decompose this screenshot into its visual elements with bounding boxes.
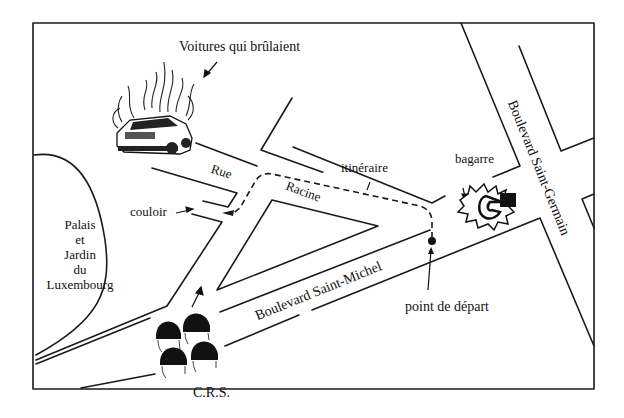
helmet-icon	[156, 313, 218, 378]
bd-saint-michel-south-edge-3	[81, 374, 155, 388]
itinerary-pointer	[367, 182, 370, 190]
start-dot-icon	[428, 237, 436, 245]
label-fight: bagarre	[455, 151, 494, 166]
rue-north-edge	[196, 143, 257, 166]
park-line-2: et	[40, 232, 120, 247]
park-line-1: Palais	[40, 217, 120, 232]
label-park: Palais et Jardin du Luxembourg	[40, 217, 120, 292]
street-map	[0, 0, 624, 418]
label-riot-police: C.R.S.	[193, 385, 230, 400]
park-line-5: Luxembourg	[40, 277, 120, 292]
route-arrowhead	[222, 210, 234, 216]
park-line-4: du	[40, 262, 120, 277]
bd-lower-left	[36, 318, 150, 364]
label-itinerary: itinéraire	[341, 160, 388, 175]
block-north-left	[261, 98, 323, 172]
label-corridor: couloir	[130, 204, 167, 219]
fight-fist-icon	[458, 184, 516, 230]
burning-car-icon	[113, 62, 194, 154]
park-line-3: Jardin	[40, 247, 120, 262]
itinerary-route	[232, 174, 432, 238]
start-pointer	[428, 250, 431, 290]
start-pointer-arrowhead	[428, 247, 434, 254]
bd-saint-germain-east-lower	[582, 194, 594, 228]
bd-saint-michel-north-edge	[220, 230, 430, 312]
label-start-point: point de départ	[405, 299, 489, 314]
label-burning-cars: Voitures qui brûlaient	[179, 39, 300, 54]
